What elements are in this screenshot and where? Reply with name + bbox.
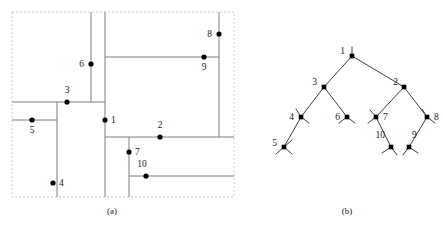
figure-root: 12345678910 13246785109 (a) (b) — [0, 0, 443, 236]
floorplan-cut-label-1: 1 — [111, 115, 116, 125]
tree-nodes — [282, 54, 430, 150]
floorplan-cut-label-10: 10 — [137, 159, 147, 169]
figure-canvas: 12345678910 13246785109 — [0, 0, 443, 236]
tree-node-label-9: 9 — [412, 130, 417, 140]
floorplan-cut-dot-3 — [64, 99, 69, 104]
tree-edges — [284, 56, 427, 147]
tree-node-7 — [374, 115, 379, 120]
tree-node-9 — [407, 145, 412, 150]
tree-node-label-3: 3 — [312, 77, 317, 87]
floorplan-cut-dot-4 — [50, 180, 55, 185]
tree-panel: 13246785109 — [272, 46, 439, 155]
tree-node-labels: 13246785109 — [272, 46, 439, 148]
floorplan-cut-dots — [29, 31, 221, 185]
floorplan-panel: 12345678910 — [12, 12, 234, 197]
floorplan-cut-label-9: 9 — [202, 62, 207, 72]
tree-node-label-2: 2 — [393, 77, 398, 87]
floorplan-cut-label-7: 7 — [135, 147, 140, 157]
panel-b-caption: (b) — [327, 206, 367, 216]
tree-node-label-8: 8 — [434, 112, 439, 122]
floorplan-cut-dot-5 — [29, 117, 34, 122]
tree-node-label-6: 6 — [335, 112, 340, 122]
tree-node-1 — [350, 54, 355, 59]
tree-node-10 — [389, 145, 394, 150]
tree-edge-2-7 — [376, 87, 404, 117]
floorplan-cut-label-8: 8 — [207, 29, 212, 39]
floorplan-cut-dot-10 — [143, 173, 148, 178]
panel-a-caption: (a) — [92, 206, 132, 216]
tree-node-label-5: 5 — [272, 138, 277, 148]
tree-node-label-1: 1 — [340, 46, 345, 56]
floorplan-cut-dot-8 — [216, 31, 221, 36]
floorplan-cut-dot-1 — [102, 117, 107, 122]
floorplan-cut-label-3: 3 — [65, 85, 70, 95]
floorplan-cut-label-6: 6 — [79, 59, 84, 69]
tree-edge-1-3 — [324, 56, 352, 87]
floorplan-cut-dot-9 — [201, 54, 206, 59]
tree-edge-2-8 — [404, 87, 427, 117]
floorplan-cut-lines — [12, 12, 234, 197]
floorplan-dashed-border — [12, 12, 234, 197]
tree-node-3 — [322, 85, 327, 90]
tree-edge-3-4 — [301, 87, 324, 117]
floorplan-cut-dot-2 — [157, 134, 162, 139]
floorplan-cut-label-5: 5 — [30, 125, 35, 135]
tree-node-label-7: 7 — [383, 112, 388, 122]
tree-node-5 — [282, 145, 287, 150]
tree-node-2 — [402, 85, 407, 90]
tree-node-6 — [345, 115, 350, 120]
tree-node-8 — [425, 115, 430, 120]
tree-node-4 — [299, 115, 304, 120]
tree-node-label-4: 4 — [289, 112, 294, 122]
floorplan-cut-label-4: 4 — [59, 178, 64, 188]
floorplan-cut-dot-7 — [126, 149, 131, 154]
tree-node-label-10: 10 — [376, 130, 386, 140]
floorplan-cut-label-2: 2 — [158, 120, 163, 130]
floorplan-cut-dot-6 — [88, 61, 93, 66]
